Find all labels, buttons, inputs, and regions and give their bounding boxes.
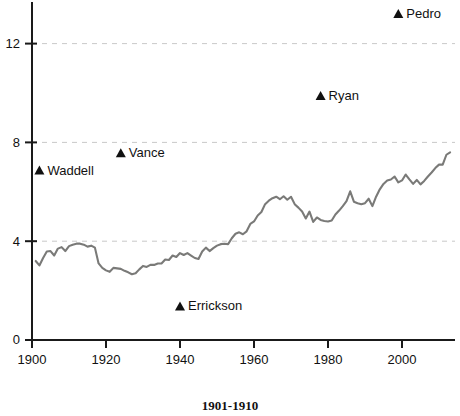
annotation-label: Waddell	[47, 163, 94, 178]
line-chart: 04812190019201940196019802000WaddellVanc…	[0, 0, 460, 416]
x-tick-label: 1960	[240, 352, 269, 367]
x-tick-label: 1940	[166, 352, 195, 367]
annotation-label: Vance	[129, 145, 165, 160]
y-tick-label: 0	[13, 332, 20, 347]
x-tick-label: 1980	[314, 352, 343, 367]
chart-container: 04812190019201940196019802000WaddellVanc…	[0, 0, 460, 416]
chart-caption: 1901-1910	[0, 398, 460, 414]
y-tick-label: 4	[13, 234, 20, 249]
x-tick-label: 1900	[18, 352, 47, 367]
y-tick-label: 12	[6, 36, 20, 51]
annotation-label: Errickson	[188, 298, 242, 313]
x-tick-label: 1920	[92, 352, 121, 367]
annotation-marker-triangle	[175, 301, 185, 310]
annotation-marker-triangle	[393, 9, 403, 18]
annotation-label: Pedro	[406, 6, 441, 21]
series-line	[36, 152, 450, 274]
annotation-marker-triangle	[34, 166, 44, 175]
annotation-label: Ryan	[329, 88, 359, 103]
y-tick-label: 8	[13, 135, 20, 150]
annotation-marker-triangle	[316, 91, 326, 100]
x-tick-label: 2000	[388, 352, 417, 367]
annotation-marker-triangle	[116, 148, 126, 157]
